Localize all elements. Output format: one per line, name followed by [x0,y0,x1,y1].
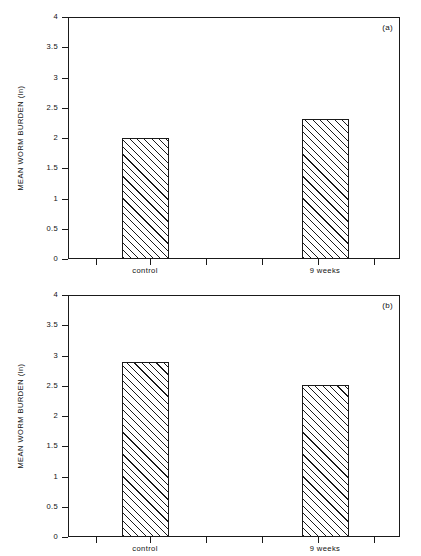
x-tick-mark [96,259,97,265]
y-tick-mark [62,108,68,109]
x-tick-mark [96,537,97,543]
y-tick-mark [62,295,68,296]
x-tick-label: 9 weeks [310,544,341,553]
x-tick-mark [318,537,319,543]
y-tick-mark [62,325,68,326]
x-tick-mark [206,259,207,265]
x-tick-mark [262,537,263,543]
y-tick-label: 1.5 [18,441,58,450]
x-tick-mark [262,259,263,265]
y-tick-mark [62,259,68,260]
y-tick-mark [62,199,68,200]
plot-area-b: (b) [68,295,400,537]
x-tick-mark [318,259,319,265]
x-tick-mark [206,537,207,543]
y-tick-mark [62,356,68,357]
y-tick-label: 2.5 [18,381,58,390]
y-tick-label: 2.5 [18,103,58,112]
chart-panel-b: MEAN WORM BURDEN (ln) (b) 00.511.522.533… [0,278,421,556]
y-tick-mark [62,416,68,417]
y-tick-label: 3.5 [18,320,58,329]
y-tick-label: 1 [18,194,58,203]
y-tick-mark [62,17,68,18]
x-tick-mark [374,537,375,543]
y-tick-mark [62,138,68,139]
y-tick-label: 1.5 [18,163,58,172]
y-tick-mark [62,386,68,387]
y-tick-mark [62,78,68,79]
x-tick-mark [150,259,151,265]
y-tick-label: 0.5 [18,224,58,233]
bar-control [122,362,169,537]
bar-9-weeks [302,119,349,259]
y-tick-label: 4 [18,12,58,21]
x-tick-label: control [132,266,158,275]
y-tick-mark [62,47,68,48]
x-tick-mark [150,537,151,543]
y-tick-mark [62,446,68,447]
y-tick-label: 2 [18,133,58,142]
y-tick-label: 4 [18,290,58,299]
figure-canvas: MEAN WORM BURDEN (ln) (a) 00.511.522.533… [0,0,421,556]
y-tick-mark [62,229,68,230]
y-tick-label: 3.5 [18,42,58,51]
x-tick-label: control [132,544,158,553]
chart-panel-a: MEAN WORM BURDEN (ln) (a) 00.511.522.533… [0,0,421,278]
y-tick-label: 3 [18,351,58,360]
panel-label-a: (a) [382,23,393,32]
y-tick-label: 2 [18,411,58,420]
y-tick-label: 0.5 [18,502,58,511]
x-tick-mark [374,259,375,265]
panel-label-b: (b) [382,301,393,310]
y-tick-label: 1 [18,472,58,481]
y-tick-label: 3 [18,73,58,82]
y-tick-label: 0 [18,532,58,541]
y-tick-mark [62,537,68,538]
y-tick-mark [62,477,68,478]
bar-9-weeks [302,385,349,537]
x-tick-label: 9 weeks [310,266,341,275]
plot-area-a: (a) [68,17,400,259]
bar-control [122,138,169,259]
y-tick-mark [62,507,68,508]
y-tick-mark [62,168,68,169]
y-tick-label: 0 [18,254,58,263]
